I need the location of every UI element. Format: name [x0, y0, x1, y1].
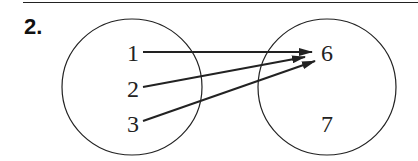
mapping-diagram-figure: 2. 12367 [0, 0, 418, 161]
domain-element-2: 2 [127, 76, 139, 102]
domain-element-1: 1 [127, 40, 139, 66]
mapping-arrow-3-to-6 [143, 61, 315, 121]
diagram-canvas: 12367 [0, 0, 418, 161]
range-element-6: 6 [321, 40, 333, 66]
domain-element-3: 3 [127, 111, 139, 137]
range-element-7: 7 [321, 111, 333, 137]
